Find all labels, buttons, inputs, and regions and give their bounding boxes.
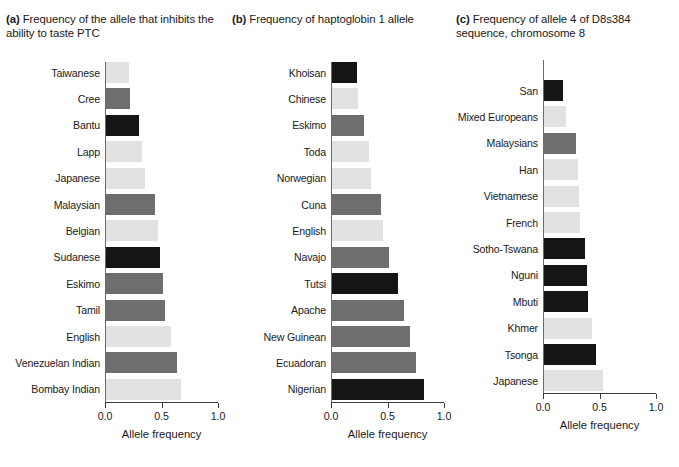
bar-label: Khoisan bbox=[226, 67, 331, 79]
bar bbox=[543, 212, 580, 233]
bar-track bbox=[543, 212, 679, 233]
bar bbox=[543, 133, 576, 154]
bar-row: English bbox=[0, 326, 226, 347]
bar-row: Mixed Europeans bbox=[448, 106, 679, 127]
x-axis-tick-label: 0.0 bbox=[324, 410, 339, 422]
bar-row: Tutsi bbox=[226, 273, 448, 294]
bar-label: Toda bbox=[226, 146, 331, 158]
bar-row: French bbox=[448, 212, 679, 233]
bar bbox=[331, 247, 389, 268]
panel-c: (c) Frequency of allele 4 of D8s384 sequ… bbox=[448, 0, 679, 467]
panel-b-title-text: Frequency of haptoglobin 1 allele bbox=[249, 13, 414, 25]
x-axis-tick bbox=[543, 394, 544, 399]
bar-row: Norwegian bbox=[226, 168, 448, 189]
bar bbox=[331, 62, 357, 83]
bar-row: Ecuadoran bbox=[226, 352, 448, 373]
bar-label: Eskimo bbox=[226, 119, 331, 131]
bar-row: Navajo bbox=[226, 247, 448, 268]
bar bbox=[331, 273, 398, 294]
bar-label: Tsonga bbox=[448, 349, 543, 361]
bar bbox=[331, 326, 410, 347]
bar-track bbox=[331, 168, 448, 189]
bar bbox=[543, 106, 566, 127]
bar-label: Bantu bbox=[0, 119, 105, 131]
bar bbox=[543, 186, 579, 207]
bar-label: San bbox=[448, 85, 543, 97]
bar bbox=[105, 88, 130, 109]
bar-row: Han bbox=[448, 159, 679, 180]
x-axis-tick bbox=[105, 403, 106, 408]
allele-frequency-figure: (a) Frequency of the allele that inhibit… bbox=[0, 0, 679, 467]
bar bbox=[543, 80, 563, 101]
panel-a-letter: (a) bbox=[6, 13, 20, 25]
bar-track bbox=[105, 88, 226, 109]
bar-row: Belgian bbox=[0, 220, 226, 241]
bar-row: Taiwanese bbox=[0, 62, 226, 83]
bar-row: Lapp bbox=[0, 141, 226, 162]
bar-label: Khmer bbox=[448, 322, 543, 334]
bar-track bbox=[543, 133, 679, 154]
x-axis-tick-label: 0.0 bbox=[98, 410, 113, 422]
bar bbox=[331, 300, 404, 321]
bar-track bbox=[105, 141, 226, 162]
panel-a-title-text: Frequency of the allele that inhibits th… bbox=[6, 13, 214, 39]
x-axis-title: Allele frequency bbox=[348, 428, 428, 440]
bar-label: Lapp bbox=[0, 146, 105, 158]
bar-track bbox=[543, 291, 679, 312]
bar-label: Taiwanese bbox=[0, 67, 105, 79]
bar-track bbox=[105, 247, 226, 268]
bar bbox=[105, 62, 129, 83]
bar-label: Navajo bbox=[226, 251, 331, 263]
bar-label: Mbuti bbox=[448, 296, 543, 308]
bar-track bbox=[331, 352, 448, 373]
bar bbox=[105, 220, 158, 241]
bar-track bbox=[543, 318, 679, 339]
bar-label: Han bbox=[448, 164, 543, 176]
bar-label: Japanese bbox=[448, 375, 543, 387]
bar bbox=[331, 115, 364, 136]
panel-c-letter: (c) bbox=[456, 13, 470, 25]
bar-row: Japanese bbox=[0, 168, 226, 189]
bar bbox=[331, 352, 416, 373]
bar-label: Eskimo bbox=[0, 278, 105, 290]
bar-track bbox=[105, 62, 226, 83]
bar-row: Khoisan bbox=[226, 62, 448, 83]
bar-track bbox=[105, 300, 226, 321]
bar-row: Malaysians bbox=[448, 133, 679, 154]
bar-label: Venezuelan Indian bbox=[0, 357, 105, 369]
bar-row: Tsonga bbox=[448, 344, 679, 365]
bar-track bbox=[331, 194, 448, 215]
bar-label: Belgian bbox=[0, 225, 105, 237]
bar-track bbox=[543, 80, 679, 101]
bar-row: Tamil bbox=[0, 300, 226, 321]
x-axis-tick bbox=[656, 394, 657, 399]
bar-track bbox=[105, 168, 226, 189]
bar bbox=[331, 379, 424, 400]
bar-track bbox=[105, 115, 226, 136]
x-axis-title: Allele frequency bbox=[560, 419, 640, 431]
x-axis-title: Allele frequency bbox=[122, 428, 202, 440]
bar-track bbox=[543, 186, 679, 207]
bar-label: Malaysians bbox=[448, 137, 543, 149]
bar-label: French bbox=[448, 217, 543, 229]
bar-track bbox=[331, 62, 448, 83]
bar-label: Sotho-Tswana bbox=[448, 243, 543, 255]
bar-track bbox=[105, 273, 226, 294]
bar-label: Nigerian bbox=[226, 383, 331, 395]
bar-label: Bombay Indian bbox=[0, 383, 105, 395]
y-axis-line bbox=[105, 62, 106, 402]
x-axis-tick-label: 0.5 bbox=[592, 401, 607, 413]
bar-label: Ecuadoran bbox=[226, 357, 331, 369]
bar-row: New Guinean bbox=[226, 326, 448, 347]
panel-b-letter: (b) bbox=[232, 13, 246, 25]
bar-track bbox=[543, 265, 679, 286]
bar-label: Mixed Europeans bbox=[448, 111, 543, 123]
bar-track bbox=[543, 106, 679, 127]
bar-label: Japanese bbox=[0, 172, 105, 184]
bar-row: Cree bbox=[0, 88, 226, 109]
panel-c-plot: SanMixed EuropeansMalaysiansHanVietnames… bbox=[448, 60, 679, 412]
x-axis-tick-label: 1.0 bbox=[211, 410, 226, 422]
bar bbox=[331, 168, 371, 189]
bar-track bbox=[543, 344, 679, 365]
bar bbox=[331, 88, 358, 109]
